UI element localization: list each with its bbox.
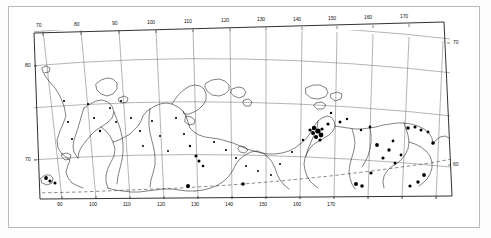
- tick-label-bottom: 110: [123, 201, 131, 207]
- map-area: 70 80 90 100 110 120 130 140 150 160 170…: [0, 0, 491, 238]
- map-graphic: [0, 0, 491, 238]
- meridian-lines: [43, 30, 443, 199]
- tick-label-bottom: 150: [259, 201, 267, 207]
- map-figure: 70 80 90 100 110 120 130 140 150 160 170…: [0, 0, 491, 238]
- tick-label-top: 130: [257, 16, 265, 22]
- tick-label-top: 90: [112, 20, 117, 26]
- tick-label-bottom: 160: [293, 201, 301, 207]
- tick-label-top: 80: [74, 21, 79, 27]
- tick-label-right: 70: [453, 39, 459, 45]
- tick-label-top: 150: [328, 15, 336, 21]
- tick-label-top: 100: [147, 19, 155, 25]
- tick-label-left: 80: [25, 62, 31, 68]
- tick-label-top: 110: [184, 18, 192, 24]
- site-markers: [44, 100, 435, 188]
- tick-label-bottom: 90: [57, 201, 62, 207]
- tick-label-top: 120: [221, 17, 229, 23]
- tick-label-top: 70: [36, 22, 41, 28]
- tick-label-top: 160: [364, 14, 372, 20]
- coastline-outlines: [41, 66, 449, 192]
- tick-label-top: 170: [400, 13, 408, 19]
- map-frame: [34, 22, 452, 199]
- tick-label-top: 140: [293, 16, 301, 22]
- tick-label-left: 70: [25, 156, 31, 162]
- tick-label-right: 60: [453, 161, 459, 167]
- tick-label-bottom: 170: [327, 201, 335, 207]
- tick-label-bottom: 140: [225, 201, 233, 207]
- tick-label-bottom: 120: [157, 201, 165, 207]
- tick-label-bottom: 100: [89, 201, 97, 207]
- dashed-boundary-line: [36, 159, 452, 193]
- tick-label-bottom: 130: [191, 201, 199, 207]
